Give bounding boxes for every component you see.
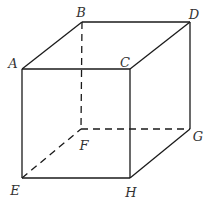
vertex-label-d: D — [189, 8, 199, 21]
edge-hg — [130, 129, 190, 178]
cube-diagram: ABCDEFGH — [0, 0, 209, 201]
edge-ab — [22, 22, 82, 69]
edge-cd — [130, 22, 190, 69]
vertex-label-f: F — [79, 139, 88, 152]
cube-drawing — [0, 0, 209, 201]
vertex-label-c: C — [120, 56, 130, 69]
vertex-label-h: H — [125, 186, 136, 199]
vertex-label-e: E — [10, 184, 20, 197]
hidden-edge-bf — [81, 22, 82, 129]
vertex-label-g: G — [193, 130, 203, 143]
vertex-label-a: A — [8, 57, 17, 70]
vertex-label-b: B — [76, 6, 86, 19]
hidden-edge-ef — [22, 129, 81, 178]
